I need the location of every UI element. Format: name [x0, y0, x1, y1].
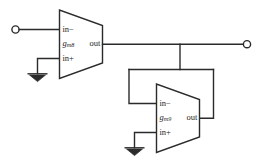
wire-gm8-inplus-to-ground: [38, 59, 60, 74]
wire-gm9-inplus-to-ground: [135, 133, 157, 148]
gm9-output-pin-label: out: [187, 112, 199, 122]
output-terminal[interactable]: [243, 41, 250, 48]
gm8-noninverting-pin-label: in+: [63, 53, 75, 63]
circuit-canvas: in− gm8 in+ out in− gm9 in+ out: [0, 0, 264, 164]
input-terminal[interactable]: [12, 26, 19, 33]
ground-gm9-icon: [127, 149, 143, 156]
wire-feedback-to-gm9-inminus: [129, 70, 157, 104]
gm8-inverting-pin-label: in−: [63, 24, 75, 34]
gm9-inverting-pin-label: in−: [160, 98, 172, 108]
ground-gm8-icon: [30, 75, 46, 82]
gm8-output-pin-label: out: [90, 38, 102, 48]
gm9-noninverting-pin-label: in+: [160, 127, 172, 137]
circuit-diagram: in− gm8 in+ out in− gm9 in+ out: [0, 0, 264, 164]
wire-gm9-output-to-feedback: [200, 70, 214, 119]
